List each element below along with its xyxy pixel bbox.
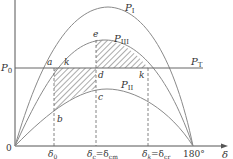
point-e: e [93,29,98,39]
acceleration-area [54,68,96,112]
point-b: b [57,114,63,124]
point-c: c [98,92,103,102]
tick-180: 180° [183,149,205,159]
label-p2: PII [120,79,133,92]
label-pt: PT [190,56,203,69]
tick-deltac: δc=δcm [87,149,118,159]
x-axis-arrow-icon [221,144,228,149]
point-k2: k [139,70,144,80]
tick-deltak: δk=δcr [142,149,170,159]
tick-delta0: δ0 [48,149,57,159]
x-axis-label: δ [222,149,228,159]
point-a: a [47,57,52,67]
point-k1: k [64,57,69,67]
curve-p2 [15,89,193,146]
origin-label: 0 [6,143,12,153]
point-d: d [98,70,104,80]
label-p0: P0 [0,62,12,75]
power-angle-diagram: PI PIII PT PII P0 0 a k e d k b c δ0 δc=… [0,0,233,159]
curve-p1 [15,7,193,146]
